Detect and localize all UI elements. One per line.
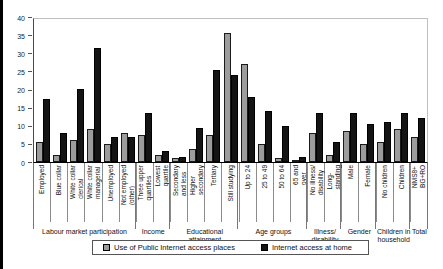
bar-column [68,89,85,162]
public-access-bar [292,160,299,162]
legend-swatch-home [261,244,268,251]
bar-column [342,113,359,162]
category-label: White collar managerial [86,165,101,199]
public-access-bar [360,144,367,162]
home-access-bar [196,128,203,162]
legend-item: Internet access at home [261,243,352,252]
plot-area [33,18,428,163]
home-access-bar [213,70,220,162]
category-cell: Employed [34,163,51,222]
bar-column [307,113,324,162]
category-cell: Tertiary [205,163,222,222]
home-access-bar [145,113,152,162]
category-label: Not employed (other) [120,165,135,205]
public-access-bar [172,158,179,162]
bar-column [137,113,154,162]
bar-column [410,118,427,162]
home-access-bar [94,48,101,162]
home-access-bar [162,151,169,162]
group-label: Income [142,228,165,236]
home-access-bar [282,126,289,162]
home-access-bar [299,157,306,162]
category-cell: White collar managerial [85,163,102,222]
category-label: Male [347,165,355,179]
public-access-bar [343,131,350,162]
bar-column [119,133,136,162]
public-access-bar [138,135,145,162]
category-cell: Secondary and less [171,163,188,222]
y-tick-mark [28,162,32,163]
group-label-cell: Total [411,228,428,245]
category-label: Unemployed [107,165,115,202]
category-cell: Female [359,163,376,222]
category-cell: Three upper quartiles [137,163,154,222]
y-tick-mark [28,71,32,72]
bar-column [154,151,171,162]
category-label: Tertiary [210,165,218,186]
category-cell: Unemployed [103,163,120,222]
category-cell: No illness/ disability [308,163,325,222]
bar-column [273,126,290,162]
home-access-bar [401,113,408,162]
y-tick-mark [28,90,32,91]
public-access-bar [258,144,265,162]
category-cell: Up to 24 [240,163,257,222]
category-cell: White collar clerical [68,163,85,222]
group-label: Labour market participation [42,228,127,236]
category-cell: 25 to 49 [257,163,274,222]
category-label: Up to 24 [244,165,252,190]
group-label: Gender [348,228,371,236]
public-access-bar [377,142,384,162]
public-access-bar [309,133,316,162]
home-access-bar [179,157,186,162]
group-label-cell: Children in household [376,228,410,245]
public-access-bar [326,155,333,162]
y-tick-mark [28,108,32,109]
public-access-bar [189,149,196,162]
y-tick-label: 25 [5,68,25,77]
category-cell: Male [342,163,359,222]
category-label: Still studying [227,165,235,202]
y-tick-label: 30 [5,50,25,59]
legend-label: Use of Public Internet access places [114,243,235,252]
category-group: Secondary and lessHigher secondaryTertia… [171,163,240,222]
bar-group [376,19,410,162]
public-access-bar [394,129,401,162]
public-access-bar [206,135,213,162]
y-tick-label: 15 [5,104,25,113]
bar-group [171,19,239,162]
category-cell: Children [394,163,411,222]
category-label: Three upper quartiles [137,165,152,200]
y-tick-label: 20 [5,86,25,95]
category-label: 25 to 49 [261,165,269,189]
bar-column [290,157,307,162]
category-group: Up to 2425 to 4950 to 6465 and over [240,163,309,222]
category-axis: EmployedBlue collarWhite collar clerical… [33,163,428,222]
home-access-bar [333,142,340,162]
bar-column [256,111,273,162]
public-access-bar [275,158,282,162]
home-access-bar [60,133,67,162]
category-label: Higher secondary [189,165,204,195]
home-access-bar [43,99,50,162]
bar-column [188,128,205,162]
category-cell: Lowest quartile [154,163,171,222]
group-label: Total [412,228,427,236]
category-label: Blue collar [55,165,63,195]
public-access-bar [70,140,77,162]
home-access-bar [367,124,374,162]
y-tick-mark [28,126,32,127]
home-access-bar [384,122,391,162]
bar-column [205,70,222,162]
category-label: 50 to 64 [278,165,286,189]
home-access-bar [77,89,84,162]
category-group: No childrenChildren [377,163,411,222]
y-tick-label: 40 [5,14,25,23]
category-cell: 50 to 64 [274,163,291,222]
category-group: EmployedBlue collarWhite collar clerical… [34,163,137,222]
home-access-bar [248,97,255,162]
category-cell: 65 and over [291,163,308,222]
public-access-bar [36,142,43,162]
chart-frame: 0510152025303540 EmployedBlue collarWhit… [0,0,443,269]
bar-column [239,64,256,162]
